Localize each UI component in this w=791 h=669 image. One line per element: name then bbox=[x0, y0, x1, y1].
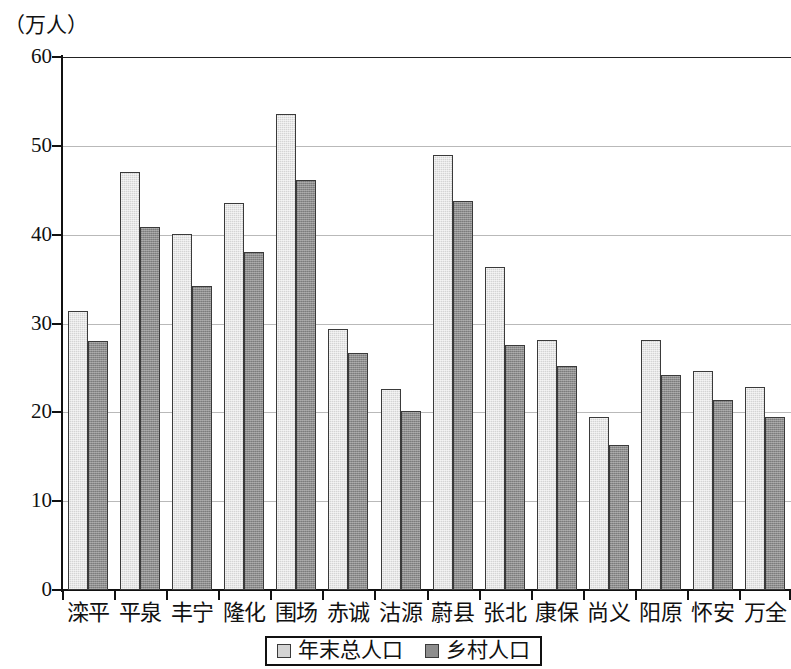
bar-total bbox=[68, 311, 88, 590]
bar-group bbox=[479, 57, 531, 590]
legend-item-total: 年末总人口 bbox=[277, 640, 403, 661]
x-category-label: 滦平 bbox=[62, 596, 114, 630]
x-category-label: 平泉 bbox=[114, 596, 166, 630]
y-tick-mark-0 bbox=[52, 589, 62, 591]
x-category-label: 围场 bbox=[270, 596, 322, 630]
bar-total bbox=[693, 371, 713, 590]
x-category-label: 丰宁 bbox=[166, 596, 218, 630]
x-category-label: 尚义 bbox=[583, 596, 635, 630]
bar-total bbox=[381, 389, 401, 590]
y-tick-mark-10 bbox=[52, 500, 62, 502]
bar-rural bbox=[192, 286, 212, 590]
bar-rural bbox=[296, 180, 316, 590]
population-bar-chart: （万人） 0102030405060 滦平平泉丰宁隆化围场赤诚沽源蔚县张北康保尚… bbox=[0, 0, 791, 669]
bar-group bbox=[739, 57, 791, 590]
bar-rural bbox=[765, 417, 785, 590]
y-tick-label-20: 20 bbox=[31, 401, 52, 422]
y-tick-mark-20 bbox=[52, 411, 62, 413]
bar-rural bbox=[505, 345, 525, 590]
x-category-label: 隆化 bbox=[218, 596, 270, 630]
bar-rural bbox=[401, 411, 421, 590]
y-tick-label-30: 30 bbox=[31, 313, 52, 334]
bar-rural bbox=[557, 366, 577, 590]
bar-total bbox=[120, 172, 140, 590]
bar-total bbox=[485, 267, 505, 590]
x-category-label: 阳原 bbox=[635, 596, 687, 630]
bar-rural bbox=[453, 201, 473, 590]
bar-group bbox=[374, 57, 426, 590]
y-axis-tick-labels: 0102030405060 bbox=[0, 0, 52, 669]
x-axis-category-labels: 滦平平泉丰宁隆化围场赤诚沽源蔚县张北康保尚义阳原怀安万全 bbox=[62, 596, 791, 630]
y-tick-label-10: 10 bbox=[31, 490, 52, 511]
y-tick-label-40: 40 bbox=[31, 224, 52, 245]
bar-group bbox=[635, 57, 687, 590]
x-category-label: 万全 bbox=[739, 596, 791, 630]
x-category-label: 赤诚 bbox=[322, 596, 374, 630]
bar-total bbox=[224, 203, 244, 590]
x-category-label: 沽源 bbox=[374, 596, 426, 630]
bar-group bbox=[114, 57, 166, 590]
legend-label: 乡村人口 bbox=[446, 640, 530, 661]
bar-total bbox=[433, 155, 453, 590]
bar-total bbox=[589, 417, 609, 590]
x-category-label: 怀安 bbox=[687, 596, 739, 630]
bar-rural bbox=[609, 445, 629, 590]
x-category-label: 康保 bbox=[531, 596, 583, 630]
bar-total bbox=[537, 340, 557, 591]
bar-group bbox=[218, 57, 270, 590]
bar-rural bbox=[88, 341, 108, 590]
y-tick-label-0: 0 bbox=[42, 579, 53, 600]
bar-groups bbox=[62, 57, 791, 590]
bar-total bbox=[276, 114, 296, 590]
y-tick-mark-30 bbox=[52, 323, 62, 325]
chart-legend: 年末总人口乡村人口 bbox=[265, 636, 542, 666]
bar-total bbox=[172, 234, 192, 590]
bar-rural bbox=[348, 353, 368, 590]
x-category-label: 蔚县 bbox=[427, 596, 479, 630]
bar-rural bbox=[244, 252, 264, 590]
bar-group bbox=[427, 57, 479, 590]
y-tick-mark-50 bbox=[52, 145, 62, 147]
bar-group bbox=[62, 57, 114, 590]
bar-total bbox=[641, 340, 661, 591]
legend-item-rural: 乡村人口 bbox=[425, 640, 530, 661]
y-tick-mark-60 bbox=[52, 56, 62, 58]
bar-group bbox=[583, 57, 635, 590]
bar-group bbox=[687, 57, 739, 590]
bar-total bbox=[328, 329, 348, 590]
legend-swatch-rural-icon bbox=[425, 644, 439, 658]
y-tick-label-60: 60 bbox=[31, 46, 52, 67]
bar-total bbox=[745, 387, 765, 590]
y-tick-label-50: 50 bbox=[31, 135, 52, 156]
bar-group bbox=[322, 57, 374, 590]
x-category-label: 张北 bbox=[479, 596, 531, 630]
legend-label: 年末总人口 bbox=[298, 640, 403, 661]
bar-group bbox=[166, 57, 218, 590]
bar-rural bbox=[661, 375, 681, 590]
bar-rural bbox=[713, 400, 733, 590]
bar-rural bbox=[140, 227, 160, 590]
bar-group bbox=[531, 57, 583, 590]
bar-group bbox=[270, 57, 322, 590]
legend-swatch-total-icon bbox=[277, 644, 291, 658]
y-tick-mark-40 bbox=[52, 234, 62, 236]
